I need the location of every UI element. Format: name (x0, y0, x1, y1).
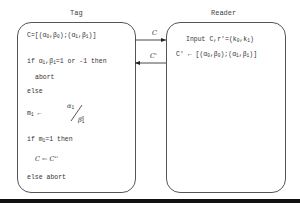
tag-abort: abort (35, 74, 55, 81)
reader-input: Input C,r'=(k0,k1) (186, 36, 254, 43)
tag-if-condition: if α1,β1=1 or -1 then (27, 58, 107, 65)
tag-m-assignment: m1 ← (27, 110, 41, 117)
tag-else-abort: else abort (27, 174, 66, 181)
tag-if-m: if m1=1 then (27, 136, 73, 143)
reader-box (166, 22, 286, 193)
message-arrows (130, 30, 172, 70)
reader-c-prime-assignment: C' ← [(α0,β0);(α1,β1)] (176, 51, 257, 58)
tag-fraction-denominator: β1x (78, 115, 84, 124)
tag-c-definition: C=[(α0,β0);(α1,β1)] (27, 32, 96, 39)
arrow-label-c: C (152, 29, 157, 37)
tag-else: else (27, 88, 43, 95)
tag-title: Tag (70, 9, 83, 17)
tag-c-assign: C ← C'' (35, 155, 58, 163)
bottom-border (0, 199, 300, 203)
arrow-label-c-prime: C' (150, 52, 157, 60)
reader-title: Reader (211, 9, 236, 17)
